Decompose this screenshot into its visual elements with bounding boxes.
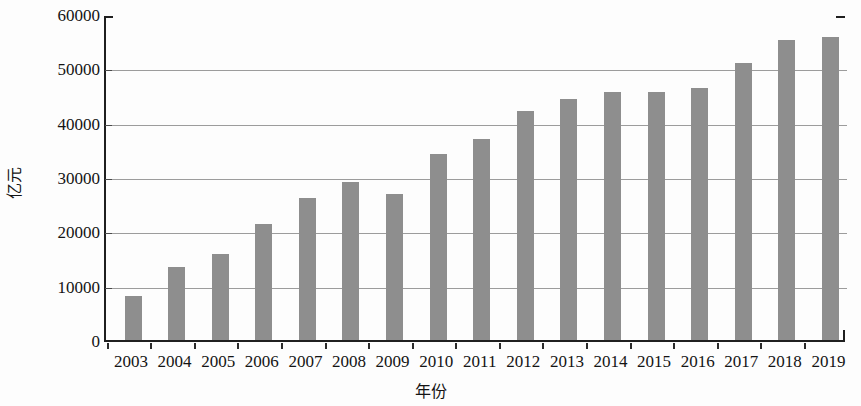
x-axis-tick — [325, 343, 327, 349]
y-axis-tick-label: 60000 — [2, 6, 100, 26]
bar — [255, 224, 272, 340]
x-axis-tick-label: 2011 — [457, 352, 503, 372]
y-axis-tick-label: 0 — [2, 332, 100, 352]
y-axis-tick-label: 30000 — [2, 169, 100, 189]
x-axis-title: 年份 — [0, 378, 861, 402]
bar — [691, 88, 708, 340]
bar — [342, 182, 359, 340]
x-axis-tick — [717, 343, 719, 349]
x-axis-tick-label: 2005 — [195, 352, 241, 372]
x-axis-tick — [542, 343, 544, 349]
x-axis-tick — [499, 343, 501, 349]
bar — [212, 254, 229, 340]
x-axis-tick — [237, 343, 239, 349]
x-axis-tick — [150, 343, 152, 349]
x-axis-tick — [673, 343, 675, 349]
bar — [473, 139, 490, 340]
x-axis-tick-label: 2010 — [413, 352, 459, 372]
x-axis-tick-label: 2017 — [718, 352, 764, 372]
x-axis-tick-label: 2006 — [239, 352, 285, 372]
x-axis-tick-label: 2003 — [108, 352, 154, 372]
x-axis-tick-label: 2019 — [805, 352, 851, 372]
bar — [299, 198, 316, 340]
y-axis-tick-label: 20000 — [2, 223, 100, 243]
x-axis-tick-label: 2013 — [544, 352, 590, 372]
bar — [517, 111, 534, 340]
plot-area — [104, 16, 845, 342]
y-axis-tick-label: 50000 — [2, 60, 100, 80]
bar — [386, 194, 403, 340]
x-axis-tick — [281, 343, 283, 349]
x-axis-tick — [760, 343, 762, 349]
bar — [430, 154, 447, 340]
x-axis-tick-label: 2008 — [326, 352, 372, 372]
bar — [168, 267, 185, 340]
x-axis-tick — [586, 343, 588, 349]
y-axis-tick-label: 40000 — [2, 115, 100, 135]
x-axis-tick — [804, 343, 806, 349]
frame-stub-top-right — [836, 16, 845, 18]
x-axis-tick — [412, 343, 414, 349]
y-axis-tick — [105, 125, 112, 126]
x-axis-tick — [455, 343, 457, 349]
y-axis-tick-labels: 0100002000030000400005000060000 — [0, 0, 100, 406]
bar-chart-figure: 亿元 0100002000030000400005000060000 20032… — [0, 0, 861, 406]
x-axis-tick-label: 2004 — [152, 352, 198, 372]
x-axis-tick-label: 2018 — [762, 352, 808, 372]
y-axis-tick-label: 10000 — [2, 278, 100, 298]
x-axis-tick-label: 2015 — [631, 352, 677, 372]
y-axis-tick — [105, 70, 112, 71]
bar — [560, 99, 577, 340]
bar — [735, 63, 752, 340]
bar — [604, 92, 621, 340]
x-axis-tick-label: 2012 — [500, 352, 546, 372]
y-axis-tick — [105, 233, 112, 234]
bar — [778, 40, 795, 340]
frame-stub-top-left — [104, 16, 113, 18]
x-axis-tick — [630, 343, 632, 349]
bar — [822, 37, 839, 340]
x-axis-tick-label: 2016 — [675, 352, 721, 372]
frame-stub-right-bottom — [843, 330, 845, 342]
y-axis-tick — [105, 288, 112, 289]
x-axis-tick-label: 2007 — [282, 352, 328, 372]
y-axis-tick — [105, 179, 112, 180]
bar — [648, 92, 665, 340]
bar — [125, 296, 142, 340]
x-axis-tick — [194, 343, 196, 349]
x-axis-tick — [107, 343, 109, 349]
x-axis-tick — [368, 343, 370, 349]
x-axis-tick-label: 2014 — [587, 352, 633, 372]
x-axis-tick-label: 2009 — [370, 352, 416, 372]
